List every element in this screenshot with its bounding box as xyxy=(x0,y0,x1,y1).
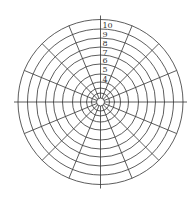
ring-label: 5 xyxy=(103,65,108,74)
grid-spokes xyxy=(14,16,187,189)
spoke xyxy=(104,70,177,100)
spoke xyxy=(24,104,97,134)
polar-grid: 45678910 xyxy=(0,0,196,206)
spoke xyxy=(103,105,159,161)
spoke xyxy=(104,104,177,134)
spoke xyxy=(69,106,99,179)
spoke xyxy=(42,44,98,100)
ring-label: 7 xyxy=(103,48,108,57)
ring-label: 4 xyxy=(103,75,108,84)
ring-label: 8 xyxy=(103,39,108,48)
spoke xyxy=(102,106,132,179)
inner-ring xyxy=(97,98,105,106)
ring-label: 9 xyxy=(103,30,108,39)
spoke xyxy=(103,44,159,100)
spoke xyxy=(24,70,97,100)
ring-label: 6 xyxy=(103,56,108,65)
spoke xyxy=(69,26,99,99)
spoke xyxy=(42,105,98,161)
ring-label: 10 xyxy=(103,21,113,30)
